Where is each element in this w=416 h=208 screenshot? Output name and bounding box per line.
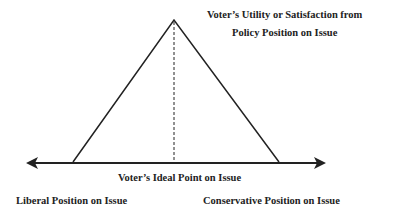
liberal-label: Liberal Position on Issue — [16, 195, 127, 206]
utility-triangle — [73, 20, 279, 162]
conservative-label: Conservative Position on Issue — [203, 195, 340, 206]
title-line-1: Voter’s Utility or Satisfaction from — [207, 9, 362, 20]
title-line-2: Policy Position on Issue — [232, 27, 337, 38]
axis-label: Voter’s Ideal Point on Issue — [118, 172, 241, 183]
issue-axis — [26, 157, 326, 169]
